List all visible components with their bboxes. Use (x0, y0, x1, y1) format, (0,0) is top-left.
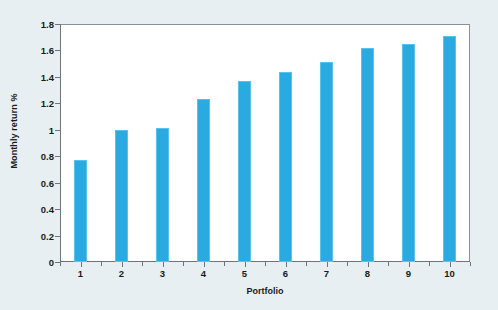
x-tick-mark (163, 262, 164, 267)
x-tick-label: 6 (283, 268, 288, 279)
y-tick-label: 1.6 (22, 45, 54, 56)
y-tick-mark (55, 130, 61, 131)
x-tick-label: 4 (201, 268, 206, 279)
x-tick-label: 1 (78, 268, 83, 279)
bar (115, 130, 128, 262)
x-tick-mark (450, 262, 451, 267)
bar (443, 36, 456, 262)
bar (279, 72, 292, 262)
x-tick-mark (122, 262, 123, 267)
bar (320, 62, 333, 262)
x-tick-label: 9 (406, 268, 411, 279)
x-tick-label: 10 (444, 268, 455, 279)
y-tick-label: 0.2 (22, 230, 54, 241)
x-tick-mark-boundary (224, 262, 225, 266)
bar (197, 99, 210, 262)
bar (74, 160, 87, 262)
y-axis-tick-labels: 00.20.40.60.811.21.41.61.8 (22, 0, 54, 310)
x-tick-mark-boundary (306, 262, 307, 266)
y-tick-label: 0.8 (22, 151, 54, 162)
y-tick-label: 1.8 (22, 19, 54, 30)
x-tick-mark-boundary (183, 262, 184, 266)
bar (156, 128, 169, 262)
x-tick-label: 2 (119, 268, 124, 279)
x-tick-mark-boundary (429, 262, 430, 266)
bar (361, 48, 374, 262)
x-tick-mark (327, 262, 328, 267)
y-tick-label: 1.4 (22, 71, 54, 82)
y-tick-mark (55, 183, 61, 184)
x-tick-mark-boundary (101, 262, 102, 266)
x-axis-title: Portfolio (60, 286, 470, 296)
y-tick-mark (55, 24, 61, 25)
y-tick-label: 0.6 (22, 177, 54, 188)
bar (238, 81, 251, 262)
y-tick-label: 1.2 (22, 98, 54, 109)
x-tick-mark (81, 262, 82, 267)
bars-container (60, 24, 470, 262)
x-tick-mark-boundary (265, 262, 266, 266)
x-tick-label: 7 (324, 268, 329, 279)
x-tick-label: 5 (242, 268, 247, 279)
x-tick-mark (368, 262, 369, 267)
bar-chart-figure: Monthly return % 00.20.40.60.811.21.41.6… (0, 0, 498, 310)
x-tick-mark-boundary (470, 262, 471, 266)
x-tick-mark-boundary (142, 262, 143, 266)
bar (402, 44, 415, 262)
y-tick-mark (55, 50, 61, 51)
x-axis-tick-labels: 12345678910 (60, 268, 470, 284)
y-tick-label: 0 (22, 257, 54, 268)
x-tick-label: 8 (365, 268, 370, 279)
y-tick-mark (55, 103, 61, 104)
x-tick-mark-boundary (347, 262, 348, 266)
y-tick-mark (55, 156, 61, 157)
x-tick-mark-boundary (60, 262, 61, 266)
y-tick-label: 1 (22, 124, 54, 135)
x-tick-label: 3 (160, 268, 165, 279)
x-tick-mark (245, 262, 246, 267)
x-tick-mark (204, 262, 205, 267)
y-tick-mark (55, 77, 61, 78)
x-tick-mark (409, 262, 410, 267)
x-tick-mark (286, 262, 287, 267)
y-tick-mark (55, 236, 61, 237)
y-tick-label: 0.4 (22, 204, 54, 215)
x-tick-mark-boundary (388, 262, 389, 266)
y-axis-title-text: Monthly return % (9, 93, 19, 168)
y-tick-mark (55, 209, 61, 210)
